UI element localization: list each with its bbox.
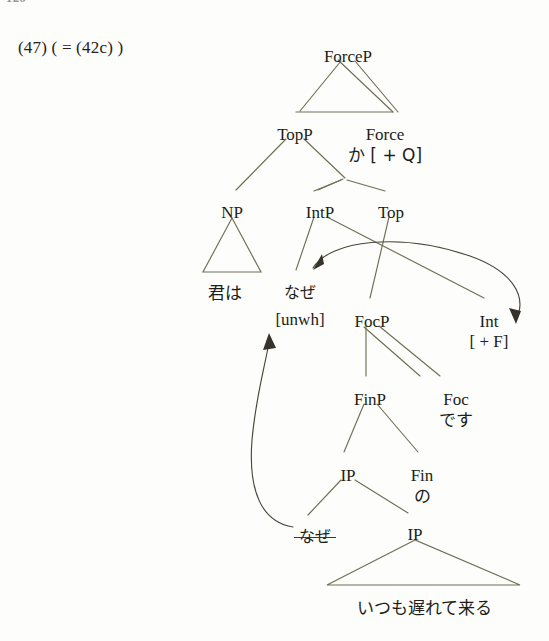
tree-node-intp: IntP: [306, 203, 334, 223]
node-label-topp: TopP: [277, 125, 313, 144]
branch-intp-int: [327, 217, 484, 298]
branch-bar-intp-leg: [314, 180, 341, 191]
node-label-top: Top: [378, 203, 404, 222]
agree-arc: [313, 242, 520, 320]
tree-node-np: NP: [221, 203, 243, 223]
node-exponent-force: か [ + Q]: [348, 145, 422, 165]
branch-ip-naze: [308, 480, 341, 515]
node-exponent-foc: です: [439, 410, 473, 430]
branch-finp-fin: [377, 404, 418, 452]
node-label-intp: IntP: [306, 203, 334, 222]
triangle-ip: [327, 540, 520, 585]
node-label-ip-lower: IP: [407, 525, 422, 544]
movement-arc: [251, 342, 293, 527]
terminal-naze-spec: なぜ: [284, 283, 316, 303]
terminal-naze-trace-word: なぜ: [299, 527, 331, 546]
node-exponent-fin: の: [411, 486, 434, 506]
branch-topp-np: [236, 139, 286, 190]
node-feature-int: [ + F]: [470, 332, 509, 352]
node-label-np: NP: [221, 203, 243, 222]
branch-forcep-right: [355, 61, 398, 112]
terminal-naze-spec-feature: [unwh]: [275, 310, 324, 330]
agree-arrowhead-left: [313, 254, 324, 270]
node-label-forcep: ForceP: [324, 47, 372, 66]
node-label-foc: Foc: [443, 390, 469, 409]
tree-node-ip-upper: IP: [340, 466, 355, 486]
branch-intp-spec: [296, 217, 314, 270]
tree-node-finp: FinP: [354, 390, 386, 410]
branch-ip-iplow: [355, 480, 408, 513]
terminal-itsumo-okurete-kuru: いつも遅れて来る: [357, 598, 492, 618]
tree-node-top: Top: [378, 203, 404, 223]
terminal-naze-trace: なぜ: [299, 527, 331, 547]
branch-forcep-left: [300, 61, 341, 111]
tree-node-ip-lower: IP: [407, 525, 422, 545]
tree-node-force: Force か [ + Q]: [348, 125, 422, 165]
branch-finp-ip: [344, 404, 364, 452]
tree-node-topp: TopP: [277, 125, 313, 145]
tree-node-forcep: ForceP: [324, 47, 372, 67]
terminal-naze-spec-word: なぜ: [284, 283, 316, 302]
tree-node-fin: Fin の: [411, 466, 434, 506]
branch-focp-finp-leg: [379, 326, 440, 376]
page-canvas: 126 (47) ( = (42c) ): [0, 0, 549, 641]
node-label-fin: Fin: [411, 466, 434, 485]
node-label-ip-upper: IP: [340, 466, 355, 485]
movement-arrowhead: [263, 333, 276, 350]
branch-forcep-topp: [338, 60, 393, 112]
terminal-kimi-wa: 君は: [208, 283, 242, 303]
tree-node-focp: FocP: [355, 312, 390, 332]
node-label-int: Int: [480, 312, 499, 331]
tree-node-int: Int [ + F]: [470, 312, 509, 352]
node-label-finp: FinP: [354, 390, 386, 409]
branch-top-focp: [370, 217, 389, 298]
triangle-np: [203, 218, 261, 272]
node-label-force: Force: [366, 125, 405, 144]
node-label-focp: FocP: [355, 312, 390, 331]
branch-bar-top: [347, 180, 385, 191]
branch-focp-foc: [364, 327, 420, 376]
tree-node-foc: Foc です: [439, 390, 473, 430]
